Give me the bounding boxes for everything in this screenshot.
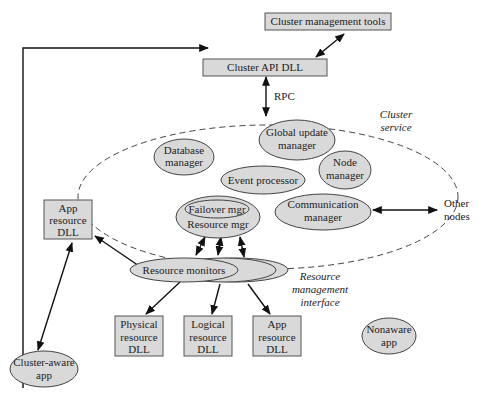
svg-text:resource: resource bbox=[120, 331, 157, 343]
resource-mgr: Failover mgr Resource mgr bbox=[176, 196, 260, 238]
resource-monitors: Resource monitors bbox=[130, 258, 288, 282]
app-resource-dll-left: App resource DLL bbox=[44, 200, 92, 239]
svg-text:Cluster-aware: Cluster-aware bbox=[13, 356, 75, 368]
svg-text:Logical: Logical bbox=[191, 318, 225, 330]
communication-manager: Communication manager bbox=[275, 194, 371, 230]
event-processor: Event processor bbox=[221, 166, 305, 194]
svg-text:Communication: Communication bbox=[288, 198, 359, 210]
rpc-label: RPC bbox=[274, 90, 295, 102]
svg-text:DLL: DLL bbox=[128, 343, 150, 355]
rm-monitor-arrow-1 bbox=[196, 237, 205, 255]
cluster-api-dll-box: Cluster API DLL bbox=[203, 59, 327, 76]
app-resource-dll-bottom: App resource DLL bbox=[253, 316, 301, 356]
svg-text:Resource monitors: Resource monitors bbox=[143, 264, 226, 276]
svg-text:manager: manager bbox=[278, 139, 316, 151]
svg-text:Cluster API DLL: Cluster API DLL bbox=[227, 61, 303, 73]
svg-text:Nonaware: Nonaware bbox=[366, 323, 411, 335]
svg-text:Node: Node bbox=[333, 156, 357, 168]
svg-text:App: App bbox=[59, 202, 78, 214]
svg-text:app: app bbox=[36, 369, 52, 381]
rmi-label-3: interface bbox=[300, 296, 339, 308]
svg-text:app: app bbox=[381, 336, 397, 348]
cluster-service-label-1: Cluster bbox=[380, 108, 413, 120]
cluster-aware-app: Cluster-aware app bbox=[10, 351, 78, 387]
monitors-to-physical-arrow bbox=[146, 282, 180, 314]
cluster-service-label-2: service bbox=[380, 121, 411, 133]
svg-text:App: App bbox=[268, 318, 287, 330]
cluster-architecture-diagram: Cluster management tools Cluster API DLL… bbox=[0, 0, 483, 398]
svg-text:resource: resource bbox=[258, 331, 295, 343]
svg-text:DLL: DLL bbox=[266, 343, 288, 355]
rm-monitor-arrow-3 bbox=[240, 237, 244, 257]
database-manager: Database manager bbox=[154, 139, 214, 175]
svg-text:manager: manager bbox=[326, 169, 364, 181]
other-nodes-label-2: nodes bbox=[444, 210, 470, 222]
tools-api-arrow bbox=[316, 34, 344, 57]
logical-resource-dll: Logical resource DLL bbox=[184, 316, 232, 356]
svg-text:Failover mgr: Failover mgr bbox=[188, 203, 245, 215]
nonaware-app: Nonaware app bbox=[362, 318, 416, 354]
svg-text:resource: resource bbox=[189, 331, 226, 343]
svg-text:DLL: DLL bbox=[197, 343, 219, 355]
monitors-to-logical-arrow bbox=[212, 284, 220, 314]
svg-text:resource: resource bbox=[49, 214, 86, 226]
svg-text:manager: manager bbox=[304, 211, 342, 223]
rm-monitor-arrow-2 bbox=[218, 237, 221, 255]
svg-text:Event processor: Event processor bbox=[228, 174, 299, 186]
node-manager: Node manager bbox=[319, 151, 371, 189]
rmi-label-2: management bbox=[292, 283, 349, 295]
svg-text:Database: Database bbox=[164, 144, 204, 156]
svg-text:Resource mgr: Resource mgr bbox=[187, 218, 249, 230]
other-nodes-label-1: Other bbox=[444, 197, 469, 209]
physical-resource-dll: Physical resource DLL bbox=[115, 316, 163, 356]
global-update-manager: Global update manager bbox=[259, 120, 335, 160]
rmi-label-1: Resource bbox=[299, 270, 341, 282]
app-dll-to-aware-app-arrow bbox=[38, 243, 72, 350]
cluster-management-tools-box: Cluster management tools bbox=[265, 13, 391, 30]
svg-text:manager: manager bbox=[165, 156, 203, 168]
svg-text:DLL: DLL bbox=[57, 226, 79, 238]
monitors-to-app-dll-bottom-arrow bbox=[248, 284, 270, 314]
svg-text:Physical: Physical bbox=[120, 318, 157, 330]
svg-text:Global update: Global update bbox=[266, 126, 328, 138]
svg-text:Cluster management tools: Cluster management tools bbox=[271, 15, 386, 27]
